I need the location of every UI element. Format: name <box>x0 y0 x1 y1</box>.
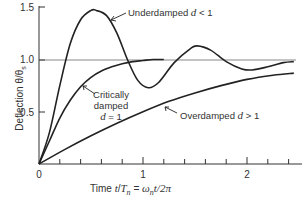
x-tick-label: 1 <box>137 170 149 180</box>
y-tick-label: 1.5 <box>12 3 34 13</box>
underdamped-curve <box>39 9 294 164</box>
x-axis-label: Time t/Tn = ωnt/2π <box>90 182 171 197</box>
y-axis-label: Deflection θ/θs <box>14 49 27 149</box>
underdamped-annotation: Underdamped d < 1 <box>128 7 212 18</box>
critically-damped-annotation: Critically damped d = 1 <box>93 89 129 122</box>
chart-plot <box>0 0 306 200</box>
x-tick-label: 0 <box>33 170 45 180</box>
y-ticks <box>39 7 45 112</box>
x-ticks <box>60 157 289 164</box>
x-tick-label: 2 <box>241 170 253 180</box>
overdamped-annotation: Overdamped d > 1 <box>180 110 259 121</box>
